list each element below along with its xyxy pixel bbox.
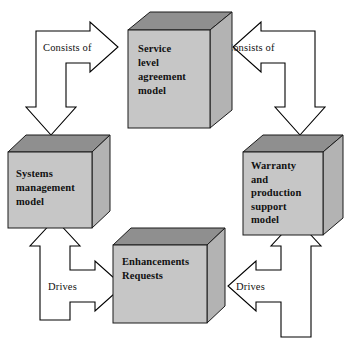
connector-top-right: Consists of [226, 22, 325, 135]
diagram-canvas: Consists of Consists of Drives Drives Se… [0, 0, 351, 340]
systems-box-side-face [92, 135, 110, 228]
connector-bottom-right-label: Drives [236, 281, 265, 292]
connector-bottom-left-shape [30, 219, 123, 320]
connector-top-left-label: Consists of [43, 42, 92, 53]
enhancements-box-top-face [113, 228, 225, 245]
connector-bottom-right: Drives [228, 219, 321, 337]
connector-bottom-left: Drives [30, 219, 123, 320]
service-box-side-face [210, 12, 232, 128]
node-enhancements-requests: Enhancements Requests [113, 228, 225, 323]
model-cycle-diagram: Consists of Consists of Drives Drives Se… [0, 0, 351, 340]
connector-top-right-shape [233, 22, 325, 135]
node-service-level-agreement-model: Service level agreement model [128, 12, 232, 128]
connector-bottom-left-label: Drives [48, 281, 77, 292]
enhancements-box-side-face [207, 228, 225, 323]
node-warranty-and-production-support-model: Warranty and production support model [243, 135, 343, 235]
connector-top-right-label: Consists of [226, 42, 275, 53]
connector-bottom-right-shape [228, 219, 321, 337]
warranty-box-side-face [323, 135, 343, 235]
connector-top-left: Consists of [26, 22, 118, 135]
connector-top-left-shape [26, 22, 118, 135]
node-systems-management-model: Systems management model [8, 135, 110, 228]
